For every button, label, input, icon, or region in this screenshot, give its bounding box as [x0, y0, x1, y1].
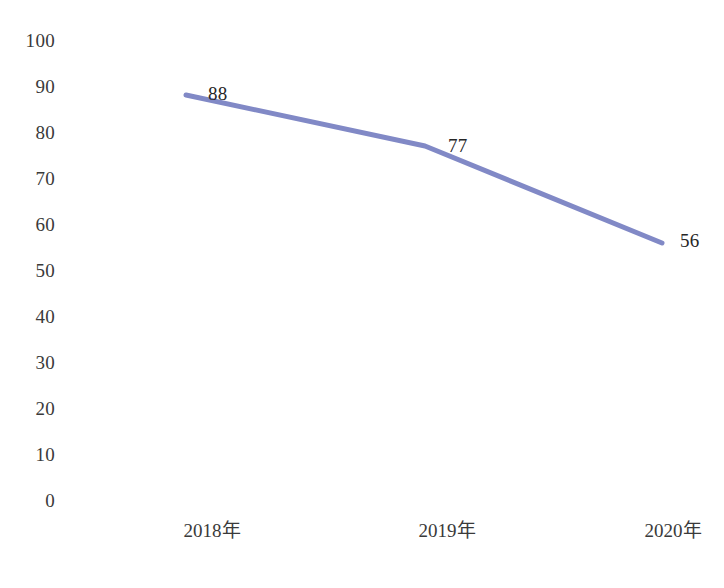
data-series-line: [186, 95, 662, 243]
line-chart: 100 90 80 70 60 50 40 30 20 10 0 88 77 5…: [0, 0, 724, 588]
x-axis-tick-label: 2018年: [184, 521, 241, 540]
data-point-label: 88: [208, 84, 227, 103]
plot-area: 100 90 80 70 60 50 40 30 20 10 0 88 77 5…: [0, 0, 724, 588]
data-point-label: 77: [448, 136, 467, 155]
x-axis-tick-label: 2019年: [419, 521, 476, 540]
series-layer: [0, 0, 724, 588]
data-point-label: 56: [680, 231, 699, 250]
x-axis-tick-label: 2020年: [645, 521, 702, 540]
